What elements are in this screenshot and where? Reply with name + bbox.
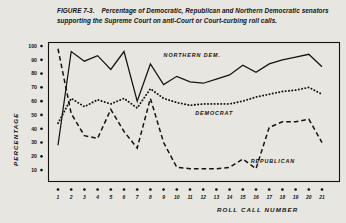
y-tick-dot [40, 127, 43, 130]
y-tick-label: 100 [28, 43, 37, 49]
x-tick-dot [228, 188, 231, 191]
x-tick-label: 1 [57, 194, 60, 200]
x-tick-label: 12 [200, 194, 206, 200]
series-label: REPUBLICAN [251, 158, 295, 164]
x-tick-label: 21 [318, 194, 325, 200]
x-tick-dot [57, 188, 60, 191]
y-axis-title: PERCENTAGE [12, 112, 19, 166]
y-tick-dot [40, 58, 43, 61]
x-tick-label: 7 [136, 194, 139, 200]
y-tick-label: 60 [31, 98, 37, 104]
y-tick-label: 90 [31, 57, 37, 63]
x-tick-dot [321, 188, 324, 191]
x-tick-dot [202, 188, 205, 191]
y-tick-label: 20 [31, 153, 37, 159]
y-tick-dot [40, 155, 43, 158]
y-tick-label: 50 [31, 112, 37, 118]
series-label: NORTHERN DEM. [164, 52, 221, 58]
y-tick-dot [40, 141, 43, 144]
x-tick-dot [123, 188, 126, 191]
y-tick-dot [40, 45, 43, 48]
series-line-dashed [58, 49, 322, 169]
x-tick-label: 16 [253, 194, 259, 200]
series-label: DEMOCRAT [195, 110, 233, 116]
x-tick-dot [96, 188, 99, 191]
y-tick-label: 10 [31, 167, 37, 173]
x-tick-label: 15 [240, 194, 246, 200]
x-tick-label: 17 [266, 194, 272, 200]
y-tick-dot [40, 72, 43, 75]
x-tick-dot [83, 188, 86, 191]
y-tick-label: 30 [31, 139, 37, 145]
x-tick-dot [268, 188, 271, 191]
x-tick-dot [307, 188, 310, 191]
x-axis-title: ROLL CALL NUMBER [217, 206, 298, 213]
x-tick-label: 11 [187, 194, 192, 200]
x-tick-dot [215, 188, 218, 191]
x-tick-label: 9 [162, 194, 165, 200]
chart-canvas: 1009080706050403020101234567891011121314… [0, 0, 346, 223]
x-tick-label: 3 [83, 194, 86, 200]
x-tick-label: 14 [227, 194, 233, 200]
x-tick-label: 10 [174, 194, 180, 200]
x-tick-dot [162, 188, 165, 191]
x-tick-dot [189, 188, 192, 191]
x-tick-dot [109, 188, 112, 191]
y-tick-label: 40 [31, 126, 37, 132]
x-tick-label: 5 [109, 194, 112, 200]
x-tick-dot [136, 188, 139, 191]
x-tick-label: 18 [280, 194, 286, 200]
x-tick-dot [281, 188, 284, 191]
x-tick-label: 20 [305, 194, 312, 200]
y-tick-label: 80 [31, 70, 37, 76]
x-tick-label: 2 [69, 194, 73, 200]
x-tick-label: 4 [95, 194, 99, 200]
x-tick-label: 19 [293, 194, 299, 200]
series-line-solid [58, 52, 322, 146]
x-tick-dot [149, 188, 152, 191]
x-tick-dot [241, 188, 244, 191]
x-tick-dot [175, 188, 178, 191]
x-tick-dot [294, 188, 297, 191]
x-tick-dot [255, 188, 258, 191]
x-tick-label: 13 [214, 194, 220, 200]
y-tick-dot [40, 100, 43, 103]
y-tick-dot [40, 114, 43, 117]
y-tick-dot [40, 169, 43, 172]
figure-page: FIGURE 7-3.Percentage of Democratic, Rep… [0, 0, 346, 223]
x-tick-dot [70, 188, 73, 191]
y-tick-label: 70 [31, 84, 37, 90]
y-tick-dot [40, 86, 43, 89]
plot-frame [49, 43, 340, 182]
x-tick-label: 8 [149, 194, 152, 200]
series-line-dotted [58, 87, 322, 123]
x-tick-label: 6 [123, 194, 126, 200]
